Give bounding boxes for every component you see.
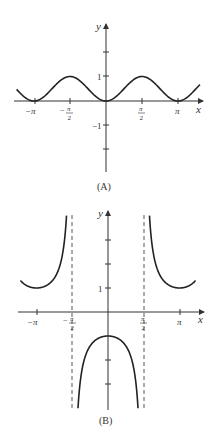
svg-text:2: 2 xyxy=(71,324,75,332)
x-tick-label-half-pi-b: π 2 xyxy=(140,315,147,332)
svg-text:π: π xyxy=(70,315,74,323)
panel-label-a: (A) xyxy=(97,181,111,193)
neg-secant-left-branch xyxy=(20,216,66,288)
svg-text:2: 2 xyxy=(142,324,146,332)
svg-text:π: π xyxy=(141,315,145,323)
sin-squared-curve xyxy=(17,77,200,102)
x-tick-label-pi-a: π xyxy=(175,106,180,116)
x-tick-label-pi-b: π xyxy=(177,317,182,327)
y-tick-label-1-b: 1 xyxy=(98,284,103,294)
x-tick-label-neg-half-pi-a: − π 2 xyxy=(60,105,73,122)
x-tick-label-neg-pi-a: −π xyxy=(25,106,36,116)
y-tick-label-1-a: 1 xyxy=(97,72,102,82)
figure: y x 1 −1 −π π − π 2 π 2 (A) xyxy=(0,0,218,437)
chart-a: y x 1 −1 −π π − π 2 π 2 (A) xyxy=(14,20,203,193)
x-tick-label-neg-pi-b: −π xyxy=(27,317,38,327)
svg-text:2: 2 xyxy=(68,114,72,122)
x-tick-label-neg-half-pi-b: − π 2 xyxy=(63,315,76,332)
svg-text:−: − xyxy=(63,316,68,325)
chart-b: y x 1 −π π − π 2 π 2 (B) xyxy=(18,207,204,427)
svg-text:π: π xyxy=(67,105,71,113)
y-axis-label-b: y xyxy=(97,207,103,219)
y-axis-label-a: y xyxy=(95,20,101,32)
x-axis-label-b: x xyxy=(197,313,203,325)
x-tick-label-half-pi-a: π 2 xyxy=(138,105,145,122)
neg-secant-right-branch xyxy=(149,216,195,288)
svg-text:π: π xyxy=(139,105,143,113)
svg-text:2: 2 xyxy=(140,114,144,122)
panel-label-b: (B) xyxy=(99,415,112,427)
y-tick-label-neg1-a: −1 xyxy=(92,121,102,131)
x-axis-label-a: x xyxy=(195,103,201,115)
svg-text:−: − xyxy=(60,106,65,115)
